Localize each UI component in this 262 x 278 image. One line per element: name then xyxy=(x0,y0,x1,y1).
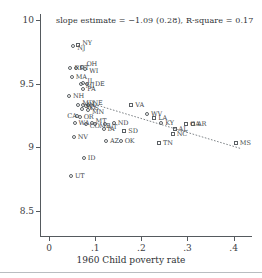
data-point xyxy=(72,135,76,139)
x-axis-tick-label: .2 xyxy=(137,243,146,253)
data-point-label: IA xyxy=(108,125,115,133)
data-point-label: AR xyxy=(197,120,206,128)
x-axis-tick xyxy=(187,237,188,241)
y-axis-tick xyxy=(36,84,40,85)
data-point xyxy=(76,43,80,47)
data-point xyxy=(93,122,97,126)
data-point-label: PA xyxy=(87,85,95,93)
data-point xyxy=(103,122,107,126)
data-point xyxy=(69,174,73,178)
data-point xyxy=(171,132,175,136)
data-point xyxy=(76,103,80,107)
y-axis-tick-label: 8.5 xyxy=(8,206,34,216)
data-point-label: DE xyxy=(95,80,105,88)
data-point xyxy=(191,122,195,126)
data-point-label: NC xyxy=(177,130,187,138)
data-point-label: ND xyxy=(118,119,129,127)
y-axis-tick xyxy=(36,20,40,21)
data-point-label: UT xyxy=(75,172,85,180)
data-point xyxy=(122,129,126,133)
x-axis-tick-label: 0 xyxy=(46,243,52,253)
x-axis-tick xyxy=(49,237,50,241)
y-axis-tick-label: 9.5 xyxy=(8,79,34,89)
data-point xyxy=(82,156,86,160)
data-point-label: WY xyxy=(86,103,97,111)
bottom-divider xyxy=(0,272,262,273)
data-point xyxy=(68,66,72,70)
data-point xyxy=(145,112,149,116)
data-point-label: MS xyxy=(240,139,251,147)
data-point xyxy=(84,122,88,126)
data-point xyxy=(119,139,123,143)
data-point xyxy=(80,107,84,111)
data-point xyxy=(234,141,238,145)
data-point xyxy=(70,75,74,79)
data-point xyxy=(152,116,156,120)
data-point-label: SD xyxy=(128,127,137,135)
y-axis-tick xyxy=(36,147,40,148)
data-point-label: TN xyxy=(163,139,173,147)
x-axis-tick-label: .4 xyxy=(229,243,238,253)
data-point xyxy=(159,121,163,125)
data-point xyxy=(104,139,108,143)
x-axis-tick-label: .3 xyxy=(183,243,192,253)
x-axis-tick xyxy=(234,237,235,241)
x-axis-title: 1960 Child poverty rate xyxy=(0,255,262,265)
scatter-plot-figure: slope estimate = −1.09 (0.28), R-square … xyxy=(0,0,262,278)
data-point xyxy=(157,141,161,145)
x-axis-tick xyxy=(95,237,96,241)
data-point xyxy=(67,94,71,98)
data-point xyxy=(81,87,85,91)
x-axis-tick-label: .1 xyxy=(91,243,100,253)
data-point-label: NV xyxy=(78,133,88,141)
data-point xyxy=(73,121,77,125)
data-point-label: NY xyxy=(82,39,92,47)
data-point xyxy=(129,103,133,107)
data-point-label: KY xyxy=(165,119,174,127)
y-axis-tick xyxy=(36,211,40,212)
data-point-label: OK xyxy=(125,137,135,145)
data-point xyxy=(102,127,106,131)
y-axis-tick-label: 10 xyxy=(8,15,34,25)
data-point xyxy=(79,82,83,86)
data-point xyxy=(83,67,87,71)
x-axis xyxy=(40,236,252,237)
data-point-label: ID xyxy=(88,154,96,162)
data-point-label: AZ xyxy=(110,137,119,145)
plot-area: NJNYCTOHWIRIMAILMIDEPANHMDINNEKSMNWYORCA… xyxy=(40,14,252,236)
data-point-label: WI xyxy=(89,67,98,75)
y-axis-tick-label: 9 xyxy=(8,142,34,152)
x-axis-tick xyxy=(141,237,142,241)
data-point-label: VA xyxy=(135,101,144,109)
data-point-label: MA xyxy=(76,73,87,81)
data-point xyxy=(71,44,75,48)
data-point-label: RI xyxy=(74,64,81,72)
data-point-label: CA xyxy=(67,112,76,120)
